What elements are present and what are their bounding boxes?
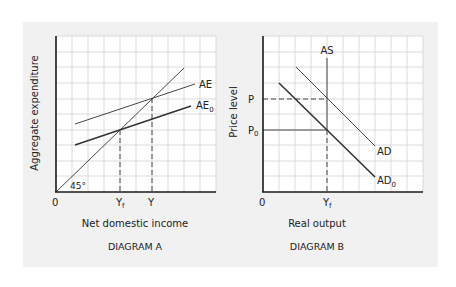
- diagram-a-ae0-label-sub: 0: [209, 106, 213, 114]
- diagram-b-origin-label: 0: [259, 197, 265, 208]
- economics-diagrams-figure: AE AE0 45° 0 Yf Y Net domestic income DI…: [0, 0, 456, 287]
- diagram-a-45-degree-label: 45°: [70, 181, 86, 191]
- diagram-b-title: DIAGRAM B: [290, 241, 344, 252]
- diagram-b-ad0-label-sub: 0: [392, 181, 396, 189]
- diagram-a-title: DIAGRAM A: [108, 241, 163, 252]
- diagram-a-ae0-label-main: AE: [196, 100, 209, 111]
- diagram-a-y-tick: Y: [147, 197, 155, 208]
- diagram-b-x-axis-label: Real output: [288, 218, 346, 229]
- diagram-a-ae-label: AE: [199, 79, 212, 90]
- diagram-b-as-label: AS: [320, 45, 333, 56]
- diagram-b-p0-tick-sub: 0: [254, 130, 258, 138]
- diagram-b-ad0-label-main: AD: [377, 175, 392, 186]
- diagram-a-y-axis-label: Aggregate expenditure: [29, 55, 40, 170]
- diagram-b-y-axis-label: Price level: [228, 86, 239, 137]
- diagram-a-x-axis-label: Net domestic income: [82, 218, 188, 229]
- diagram-b-p-tick: P: [248, 94, 254, 105]
- diagram-b-ad-label: AD: [377, 146, 392, 157]
- diagram-a-origin-label: 0: [52, 197, 58, 208]
